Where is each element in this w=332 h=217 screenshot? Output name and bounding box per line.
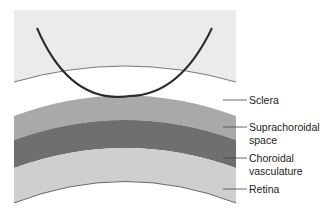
label-choroidal-2: vasculature xyxy=(249,165,303,177)
label-suprachoroidal-2: space xyxy=(249,134,277,146)
eye-layers-diagram xyxy=(0,0,332,217)
label-suprachoroidal: Suprachoroidal xyxy=(249,121,320,133)
label-sclera: Sclera xyxy=(249,94,279,106)
label-retina: Retina xyxy=(249,183,279,195)
label-choroidal: Choroidal xyxy=(249,152,294,164)
